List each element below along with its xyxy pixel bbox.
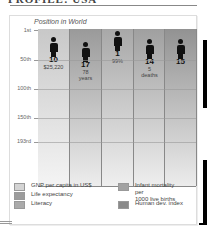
legend-label: GNP per capita in US$ [31,182,92,189]
legend-label: Literacy [31,200,52,207]
gridline-100th [38,89,196,90]
legend-swatch [118,183,129,191]
y-tick-150th: 150th [10,114,31,120]
column-literacy: 1 99% [101,29,133,186]
y-tick-100th: 100th [10,85,31,91]
person-icon [81,42,91,62]
gridline-193rd [38,142,196,143]
gridline-50th [38,60,196,61]
page-edge-base [199,223,207,225]
legend-label: Life expectancy [31,191,73,198]
tick-mark [34,142,38,143]
legend-label: Human dev. index [135,200,183,207]
rank-value: 14 [134,57,165,66]
rule-line [0,221,12,222]
plot-area: 10 $25,220 17 78 years 1 99% 14 5 deaths… [38,29,196,187]
legend-item-gnp: GNP per capita in US$ [14,182,92,191]
tick-mark [34,118,38,119]
tick-mark [34,89,38,90]
stat-unit: deaths [134,72,165,78]
gridline-150th [38,118,196,119]
stat-value: $25,220 [38,64,69,70]
y-tick-1st: 1st [10,27,31,33]
stat-unit: years [70,75,101,81]
rule-line [0,223,12,224]
legend-swatch [14,183,25,191]
column-human-dev-index: 15 [164,29,197,186]
y-tick-193rd: 193rd [10,138,31,144]
person-icon [176,39,186,59]
legend-item-literacy: Literacy [14,200,52,209]
column-infant-mortality: 14 5 deaths [133,29,165,186]
person-icon [145,39,155,59]
legend-swatch [14,201,25,209]
rank-value: 17 [70,60,101,69]
legend-swatch [118,201,129,209]
title-rule [10,5,197,6]
legend-item-human-dev-index: Human dev. index [118,200,183,209]
legend-swatch [14,192,25,200]
page-edge-bar [203,40,207,108]
rank-value: 15 [165,57,196,66]
tick-mark [34,60,38,61]
legend-item-life-expectancy: Life expectancy [14,191,73,200]
y-tick-50th: 50th [10,56,31,62]
column-life-expectancy: 17 78 years [69,29,101,186]
rank-value: 1 [102,49,133,58]
tick-mark [34,30,38,31]
person-icon [49,37,59,57]
column-gnp: 10 $25,220 [38,29,69,186]
person-icon [113,31,123,51]
chart-title: Position in World [34,18,87,25]
stat-value: 99% [102,58,133,64]
page-edge-bar [203,160,207,225]
